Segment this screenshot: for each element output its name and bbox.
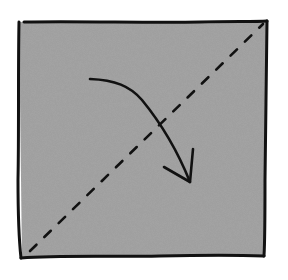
square-outline-bottom bbox=[21, 255, 264, 258]
fold-diagram bbox=[0, 0, 288, 280]
square-outline-top bbox=[24, 21, 267, 22]
